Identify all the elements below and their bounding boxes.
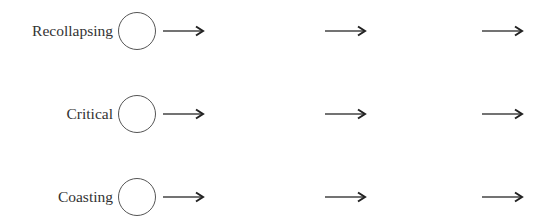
arrow-right-icon — [481, 189, 525, 205]
row-critical: Critical — [0, 94, 551, 134]
circle-icon — [118, 178, 156, 216]
arrow-right-icon — [324, 106, 368, 122]
circle-icon — [118, 95, 156, 133]
arrow-right-icon — [324, 23, 368, 39]
arrow-right-icon — [481, 23, 525, 39]
arrow-right-icon — [324, 189, 368, 205]
row-label: Recollapsing — [32, 11, 113, 51]
row-label: Coasting — [58, 177, 113, 217]
arrow-right-icon — [162, 189, 206, 205]
circle-icon — [118, 12, 156, 50]
row-recollapsing: Recollapsing — [0, 11, 551, 51]
arrow-right-icon — [481, 106, 525, 122]
arrow-right-icon — [162, 23, 206, 39]
row-coasting: Coasting — [0, 177, 551, 217]
row-label: Critical — [67, 94, 114, 134]
arrow-right-icon — [162, 106, 206, 122]
